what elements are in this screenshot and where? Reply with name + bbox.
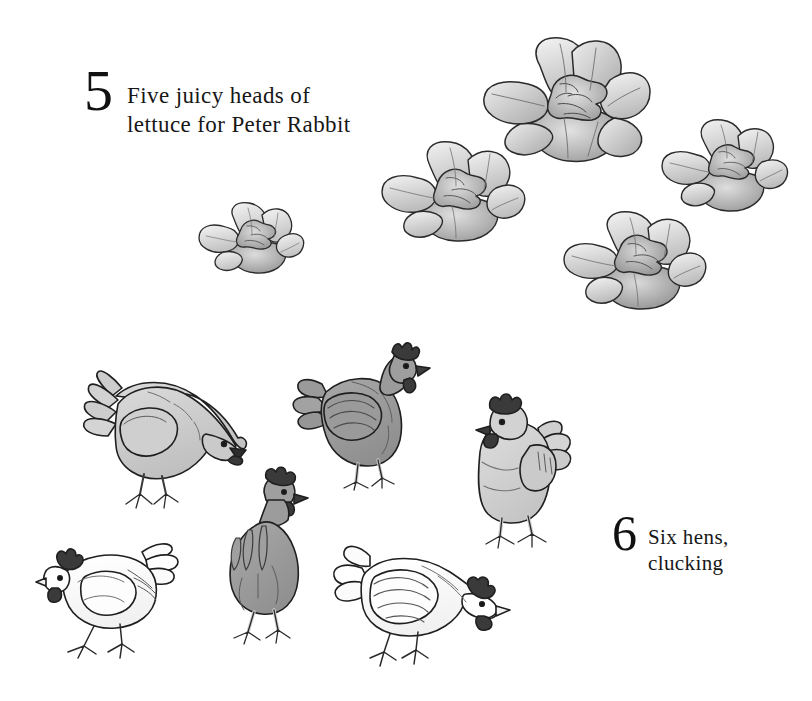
lettuce-lower-right-illustration [552, 212, 712, 312]
hen-white-bottom-illustration [326, 532, 512, 672]
page-canvas: 5 Five juicy heads of lettuce for Peter … [0, 0, 812, 701]
caption-block-six: 6 Six hens, clucking [612, 512, 729, 576]
lettuce-far-right-illustration [650, 116, 800, 216]
hen-rear-center-illustration [216, 466, 342, 646]
lettuce-small-left-illustration [192, 203, 310, 275]
caption-text-six: Six hens, clucking [648, 524, 729, 576]
hen-facing-front-right-illustration [452, 390, 588, 550]
caption-text-five: Five juicy heads of lettuce for Peter Ra… [127, 82, 351, 139]
lettuce-upper-middle-illustration [372, 138, 537, 250]
numeral-six: 6 [612, 510, 637, 556]
numeral-five: 5 [84, 64, 113, 117]
caption-block-five: 5 Five juicy heads of lettuce for Peter … [84, 68, 351, 139]
hen-white-left-illustration [38, 522, 198, 662]
